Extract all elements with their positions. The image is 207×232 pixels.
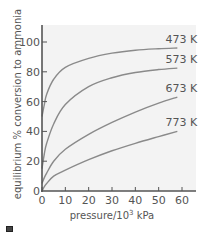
x-axis-title-unit: kPa — [134, 210, 155, 221]
x-tick-label: 10 — [58, 194, 72, 207]
square-icon — [6, 226, 13, 232]
y-tick-label: 0 — [33, 185, 40, 198]
x-axis-title-base: pressure/10 — [70, 210, 129, 221]
y-tick-label: 80 — [26, 66, 40, 79]
x-tick-label: 60 — [175, 194, 189, 207]
chart: 0102030405060020406080100 473 K573 K673 … — [0, 0, 207, 232]
x-tick-label: 50 — [152, 194, 166, 207]
series-label: 473 K — [166, 33, 198, 46]
y-tick-label: 40 — [26, 125, 40, 138]
x-tick-label: 30 — [105, 194, 119, 207]
plot-background — [42, 25, 196, 191]
x-tick-label: 40 — [128, 194, 142, 207]
y-tick-label: 20 — [26, 155, 40, 168]
series-label: 573 K — [166, 53, 198, 66]
x-tick-label: 20 — [82, 194, 96, 207]
x-axis-title: pressure/103 kPa — [70, 209, 154, 221]
series-label: 673 K — [166, 82, 198, 95]
series-label: 773 K — [166, 116, 198, 129]
y-tick-label: 60 — [26, 96, 40, 109]
y-axis-title: equilibrium % conversion to ammonia — [12, 9, 23, 199]
